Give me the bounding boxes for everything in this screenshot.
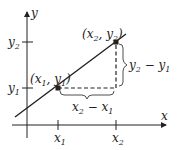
point-1-label: (x1, y1): [30, 72, 71, 88]
x-tick-label-2: x2: [112, 131, 124, 147]
x-tick-label-1: x1: [54, 131, 66, 147]
rise-brace: [119, 44, 127, 86]
run-label: x2 − x1: [72, 100, 113, 116]
point-2-label: (x2, y2): [82, 27, 123, 43]
rise-label: y2 − y1: [128, 58, 170, 74]
y-axis-label: y: [30, 6, 38, 20]
run-brace: [60, 91, 114, 99]
y-tick-label-1: y1: [7, 81, 20, 97]
point-1-marker: [56, 86, 61, 91]
y-tick-label-2: y2: [7, 35, 20, 51]
slope-diagram: x y x1 x2 y1 y2 (x1, y1) (x2, y2) x2 − x…: [0, 0, 178, 150]
x-axis-label: x: [161, 109, 168, 123]
